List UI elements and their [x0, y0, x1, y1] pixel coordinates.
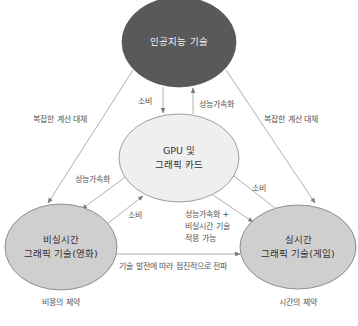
- edge-label-gpu-to-offline: 성능가속화: [75, 174, 110, 185]
- node-realtime-line1: 실시간: [243, 233, 353, 247]
- edge-ai-to-realtime: [226, 70, 315, 203]
- node-offline-label: 비실시간 그래픽 기술(영화): [6, 233, 116, 261]
- edge-label-realtime-to-gpu: 소비: [252, 183, 266, 194]
- edge-label-gpu-to-realtime: 성능가속화 + 비실시간 기술 적용 가능: [185, 209, 230, 245]
- caption-realtime: 시간의 제약: [253, 297, 343, 308]
- node-realtime-line2: 그래픽 기술(게임): [243, 247, 353, 261]
- edge-label-offline-to-gpu: 소비: [128, 210, 142, 221]
- node-offline-line2: 그래픽 기술(영화): [6, 247, 116, 261]
- edge-label-gpu-to-realtime-line1: 성능가속화 +: [185, 209, 230, 221]
- node-offline-line1: 비실시간: [6, 233, 116, 247]
- node-gpu-line2: 그래픽 카드: [129, 158, 229, 172]
- edge-label-ai-to-realtime: 복잡한 계산 대체: [264, 114, 318, 125]
- edge-label-gpu-to-realtime-line3: 적용 가능: [185, 233, 230, 245]
- node-gpu-line1: GPU 및: [129, 144, 229, 158]
- edge-label-offline-to-realtime: 기술 발전에 따라 점진적으로 전파: [119, 261, 227, 272]
- node-realtime-label: 실시간 그래픽 기술(게임): [243, 233, 353, 261]
- node-gpu-label: GPU 및 그래픽 카드: [129, 144, 229, 172]
- edge-label-gpu-to-realtime-line2: 비실시간 기술: [185, 221, 230, 233]
- edge-label-ai-to-gpu: 소비: [138, 96, 152, 107]
- node-ai-label: 인공지능 기술: [129, 35, 229, 49]
- edge-label-ai-to-offline: 복잡한 계산 대체: [33, 114, 87, 125]
- edge-label-gpu-to-ai: 성능가속화: [199, 99, 234, 110]
- caption-offline: 비용의 제약: [16, 297, 106, 308]
